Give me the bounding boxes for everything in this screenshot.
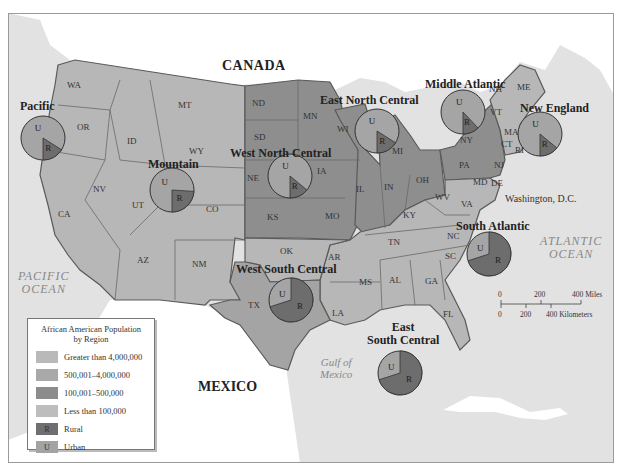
legend-title: African American Population by Region: [28, 324, 154, 344]
legend-label: 500,001–4,000,000: [64, 370, 130, 380]
legend-item: RRural: [36, 420, 154, 438]
legend-swatch: [36, 405, 58, 417]
legend-swatch: [36, 387, 58, 399]
legend-items: Greater than 4,000,000500,001–4,000,0001…: [28, 348, 154, 456]
legend-swatch: [36, 351, 58, 363]
legend-swatch: [36, 369, 58, 381]
legend-item: 100,001–500,000: [36, 384, 154, 402]
legend-label: 100,001–500,000: [64, 388, 124, 398]
legend-label: Urban: [64, 442, 85, 452]
legend-swatch: U: [36, 441, 58, 453]
legend-label: Rural: [64, 424, 83, 434]
legend-item: 500,001–4,000,000: [36, 366, 154, 384]
legend-swatch: R: [36, 423, 58, 435]
legend-label: Greater than 4,000,000: [64, 352, 142, 362]
legend-item: Greater than 4,000,000: [36, 348, 154, 366]
legend-item: Less than 100,000: [36, 402, 154, 420]
legend: African American Population by Region Gr…: [27, 318, 155, 450]
legend-item: UUrban: [36, 438, 154, 456]
legend-label: Less than 100,000: [64, 406, 126, 416]
